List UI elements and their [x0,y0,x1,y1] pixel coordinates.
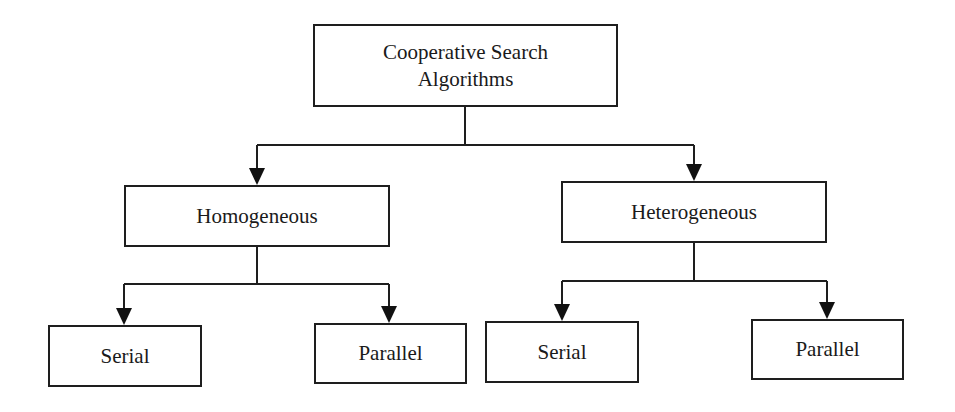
homogeneous-parallel-arrowhead-icon [381,306,397,323]
root-node-label: Cooperative Search Algorithms [383,39,548,93]
homogeneous-parallel-label: Parallel [358,340,422,367]
homogeneous-node: Homogeneous [124,185,390,247]
homogeneous-arrowhead-icon [249,168,265,185]
homogeneous-serial-arrowhead-icon [116,308,132,325]
heterogeneous-serial-arrowhead-icon [554,304,570,321]
heterogeneous-node: Heterogeneous [561,181,827,243]
homogeneous-serial-label: Serial [101,343,150,370]
homogeneous-serial-node: Serial [48,325,202,387]
homogeneous-node-label: Homogeneous [196,203,317,230]
root-label-line1: Cooperative Search [383,39,548,66]
cooperative-search-tree-diagram: Cooperative Search Algorithms Homogeneou… [0,0,955,412]
homogeneous-parallel-node: Parallel [314,323,467,384]
heterogeneous-parallel-label: Parallel [795,336,859,363]
heterogeneous-serial-label: Serial [538,339,587,366]
heterogeneous-serial-node: Serial [485,321,639,383]
heterogeneous-parallel-arrowhead-icon [819,302,835,319]
root-node: Cooperative Search Algorithms [313,24,618,107]
heterogeneous-arrowhead-icon [686,164,702,181]
heterogeneous-node-label: Heterogeneous [631,199,757,226]
root-label-line2: Algorithms [383,66,548,93]
heterogeneous-parallel-node: Parallel [751,319,904,380]
